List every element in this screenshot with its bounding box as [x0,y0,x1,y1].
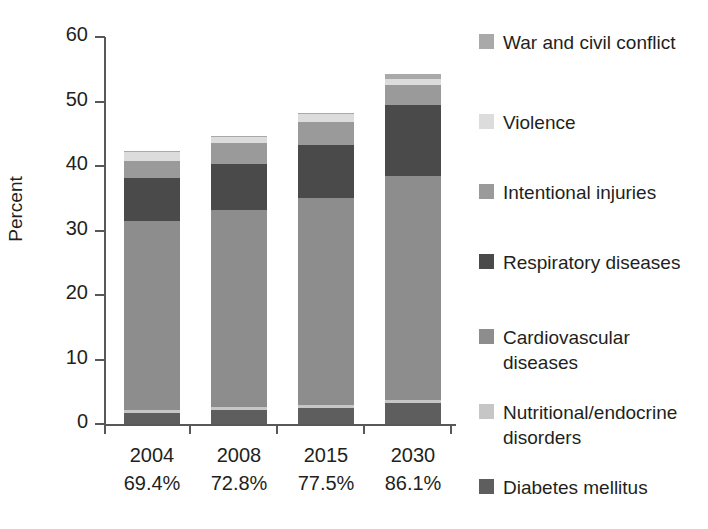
legend-swatch-icon [479,184,494,199]
bar-segment [124,221,180,409]
bar-segment [298,113,354,114]
bar-stack [385,37,441,424]
bar-segment [385,176,441,400]
bar-segment [211,136,267,137]
x-axis-percent-label: 72.8% [194,468,284,498]
bar-stack [124,37,180,424]
legend-swatch-icon [479,254,494,269]
chart-title-cropped [0,0,708,7]
x-axis-tick [189,425,191,434]
x-axis-percent-label: 69.4% [107,468,197,498]
x-axis-tick [450,425,452,434]
x-axis-category-2008: 200872.8% [194,442,284,498]
bar-segment [124,410,180,413]
bar-segment [298,198,354,405]
bar-segment [298,114,354,121]
bar-segment [124,413,180,424]
legend-item[interactable]: Violence [479,110,705,135]
stacked-bar-chart: 6050403020100 Percent 200469.4%200872.8%… [0,0,708,529]
x-axis-category-2030: 203086.1% [368,442,458,498]
x-axis-percent-label: 77.5% [281,468,371,498]
legend-swatch-icon [479,329,494,344]
x-axis-percent-label: 86.1% [368,468,458,498]
x-axis-year-label: 2004 [107,442,197,468]
bar-segment [298,145,354,198]
bar-segment [385,79,441,85]
legend-item-label: Cardiovascular diseases [503,325,705,375]
legend-swatch-icon [479,114,494,129]
bar-stack [298,37,354,424]
bar-segment [211,164,267,210]
bar-segment [298,408,354,424]
bar-segment [385,105,441,177]
bar-segment [124,151,180,152]
x-axis-tick [104,425,106,434]
bar-segment [124,161,180,178]
legend-item[interactable]: Respiratory diseases [479,250,705,275]
bar-segment [124,152,180,160]
x-axis-category-2004: 200469.4% [107,442,197,498]
bar-segment [124,178,180,221]
x-axis-category-2015: 201577.5% [281,442,371,498]
bar-segment [211,210,267,407]
legend-item[interactable]: War and civil conflict [479,30,705,55]
bar-segment [385,400,441,403]
legend-item-label: Violence [503,110,576,135]
bar-segment [298,122,354,145]
x-axis-year-label: 2008 [194,442,284,468]
x-axis-year-label: 2015 [281,442,371,468]
bar-segment [385,74,441,79]
x-axis-tick [276,425,278,434]
legend-item-label: Respiratory diseases [503,250,680,275]
legend-swatch-icon [479,404,494,419]
legend-swatch-icon [479,479,494,494]
y-axis-title: Percent [5,129,27,289]
legend-item[interactable]: Cardiovascular diseases [479,325,705,375]
legend-item-label: Intentional injuries [503,180,656,205]
x-axis-year-label: 2030 [368,442,458,468]
legend-item-label: War and civil conflict [503,30,675,55]
legend-item-label: Nutritional/endocrine disorders [503,400,705,450]
x-axis-tick [363,425,365,434]
legend-item-label: Diabetes mellitus [503,475,648,500]
bar-stack [211,37,267,424]
legend-item[interactable]: Intentional injuries [479,180,705,205]
bar-segment [211,143,267,164]
x-axis-line [104,424,456,426]
bar-segment [211,410,267,424]
legend-item[interactable]: Diabetes mellitus [479,475,705,500]
bar-segment [298,405,354,408]
bar-segment [385,85,441,105]
legend-swatch-icon [479,34,494,49]
bar-segment [385,403,441,424]
bar-segment [211,137,267,143]
legend-item[interactable]: Nutritional/endocrine disorders [479,400,705,450]
bar-segment [211,407,267,410]
